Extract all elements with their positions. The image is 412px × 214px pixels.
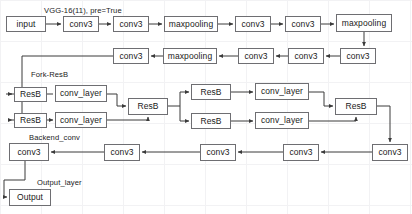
node-bconv_2[interactable]: conv3	[104, 144, 140, 161]
node-resb_d[interactable]: ResB	[191, 113, 231, 129]
node-bconv_1[interactable]: conv3	[9, 143, 49, 161]
node-input[interactable]: input	[6, 16, 46, 32]
node-resb_out[interactable]: ResB	[335, 98, 377, 115]
node-conv3_3[interactable]: conv3	[235, 16, 271, 32]
node-resb_mid[interactable]: ResB	[128, 98, 168, 115]
node-maxpool_2[interactable]: maxpooling	[336, 14, 392, 32]
node-bconv_5[interactable]: conv3	[372, 144, 408, 161]
node-conv3_5[interactable]: conv3	[340, 48, 376, 64]
group-label-output: Output_layer	[37, 178, 82, 187]
node-maxpool_1[interactable]: maxpooling	[164, 16, 218, 32]
node-resb_a[interactable]: ResB	[14, 87, 47, 102]
node-conv3_2[interactable]: conv3	[113, 16, 149, 32]
node-bconv_4[interactable]: conv3	[283, 144, 319, 161]
node-convl_a[interactable]: conv_layer	[55, 85, 107, 102]
node-conv3_1[interactable]: conv3	[63, 16, 99, 32]
group-label-backend: Backend_conv	[29, 133, 80, 142]
node-conv3_6[interactable]: conv3	[288, 48, 324, 64]
node-resb_b[interactable]: ResB	[14, 113, 47, 128]
node-convl_b[interactable]: conv_layer	[55, 112, 107, 128]
node-convl_c[interactable]: conv_layer	[255, 83, 309, 100]
group-label-fork: Fork-ResB	[31, 70, 68, 79]
node-conv3_4[interactable]: conv3	[285, 16, 321, 32]
node-resb_c[interactable]: ResB	[191, 84, 231, 100]
node-output[interactable]: Output	[9, 189, 51, 206]
diagram-canvas: VGG-16(11), pre=TrueFork-ResBBackend_con…	[0, 0, 412, 214]
node-convl_d[interactable]: conv_layer	[255, 112, 309, 129]
node-conv3_7[interactable]: conv3	[238, 48, 274, 64]
group-label-vgg: VGG-16(11), pre=True	[44, 6, 122, 15]
node-conv3_8[interactable]: conv3	[113, 48, 149, 64]
node-maxpool_3[interactable]: maxpooling	[163, 48, 217, 64]
node-bconv_3[interactable]: conv3	[200, 144, 236, 161]
